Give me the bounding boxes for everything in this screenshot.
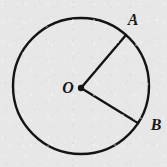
radius-ob-line [81,88,138,123]
circle-diagram-canvas: O A B [0,0,167,167]
label-point-a: A [127,11,139,28]
label-center-o: O [62,79,74,96]
label-point-b: B [150,116,162,133]
radius-oa-line [81,35,126,88]
geometry-figure: O A B [0,0,167,167]
center-point-dot [78,85,84,91]
